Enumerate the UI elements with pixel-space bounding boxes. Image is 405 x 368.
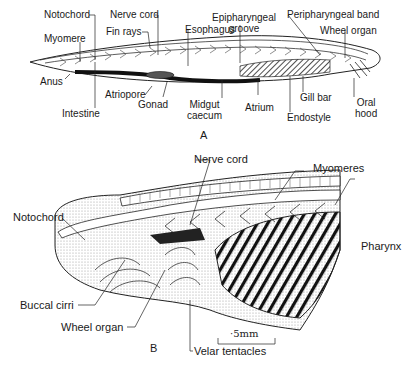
label-buccal-cirri: Buccal cirri — [20, 300, 74, 311]
label-myomere: Myomere — [44, 33, 86, 44]
label-velar-tentacles: Velar tentacles — [194, 346, 266, 357]
label-epipharyngeal-groove: Epipharyngeal groove — [212, 12, 276, 34]
panel-b-letter: B — [150, 342, 157, 354]
label-fin-rays: Fin rays — [106, 26, 142, 37]
label-nerve-cord-a: Nerve cord — [110, 9, 159, 20]
anterior-end-drawing — [55, 170, 340, 330]
label-notochord-b: Notochord — [13, 212, 64, 223]
label-gonad: Gonad — [138, 99, 168, 110]
label-oral-hood: Oral hood — [355, 97, 377, 119]
panel-a-letter: A — [200, 129, 207, 141]
label-pharynx: Pharynx — [361, 241, 401, 252]
label-notochord-a: Notochord — [44, 9, 90, 20]
label-nerve-cord-b: Nerve cord — [194, 154, 248, 165]
panel-a-drawing — [0, 0, 405, 368]
scale-bar-label: ·5mm — [230, 328, 259, 339]
label-gill-bar: Gill bar — [300, 92, 332, 103]
label-anus: Anus — [40, 76, 63, 87]
label-endostyle: Endostyle — [287, 112, 331, 123]
label-wheel-organ-a: Wheel organ — [320, 25, 377, 36]
label-peripharyngeal-band: Peripharyngeal band — [287, 9, 379, 20]
label-wheel-organ-b: Wheel organ — [61, 322, 123, 333]
label-atrium: Atrium — [245, 102, 274, 113]
label-midgut-caecum: Midgut caecum — [187, 99, 222, 121]
label-myomeres: Myomeres — [313, 163, 364, 174]
label-intestine: Intestine — [62, 108, 100, 119]
